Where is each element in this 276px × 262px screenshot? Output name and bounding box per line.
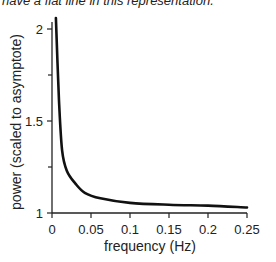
y-tick-label: 1.5: [25, 114, 43, 129]
x-axis: 0 0.05 0.1 0.15 0.2 0.25 frequency (Hz): [48, 213, 259, 254]
x-axis-label: frequency (Hz): [104, 238, 196, 254]
x-tick-label: 0.2: [199, 222, 217, 237]
x-tick-label: 0.1: [121, 222, 139, 237]
x-tick-label: 0: [48, 222, 55, 237]
x-tick-label: 0.15: [156, 222, 181, 237]
chart: 2 1.5 1 power (scaled to asymptote) 0 0.…: [0, 0, 276, 262]
y-axis: 2 1.5 1 power (scaled to asymptote): [8, 22, 52, 221]
x-tick-label: 0.05: [78, 222, 103, 237]
power-curve: [56, 18, 247, 208]
y-axis-label: power (scaled to asymptote): [8, 34, 24, 210]
x-tick-label: 0.25: [234, 222, 259, 237]
y-tick-label: 2: [36, 22, 43, 37]
y-tick-label: 1: [36, 206, 43, 221]
